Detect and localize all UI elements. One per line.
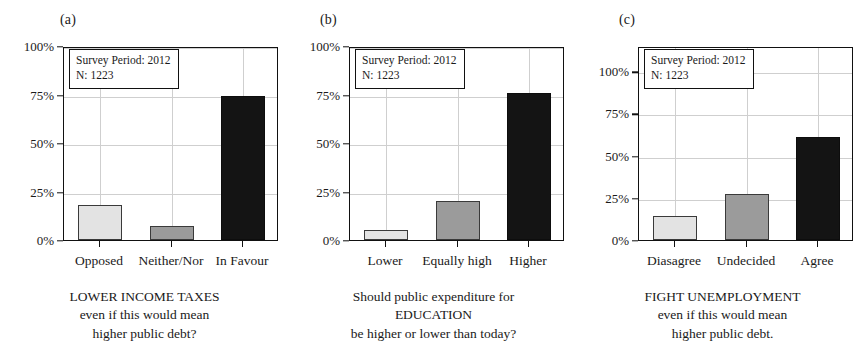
panel-c-sample-size: N: 1223 xyxy=(651,68,746,83)
panel-a-caption: LOWER INCOME TAXES even if this would me… xyxy=(0,288,289,343)
panel-b-caption-line-2: EDUCATION xyxy=(289,306,578,324)
x-axis-label-lower: Lower xyxy=(367,253,402,269)
y-tick-mark-75 xyxy=(632,114,638,115)
y-tick-label-25: 25% xyxy=(605,191,629,207)
bar-opposed xyxy=(78,205,122,240)
panel-c-caption: FIGHT UNEMPLOYMENT even if this would me… xyxy=(578,288,867,343)
x-axis-label-equally-high: Equally high xyxy=(422,253,491,269)
panel-a-annotation-box: Survey Period: 2012 N: 1223 xyxy=(69,49,179,89)
y-tick-mark-25 xyxy=(632,198,638,199)
y-tick-label-75: 75% xyxy=(605,106,629,122)
panel-a-sample-size: N: 1223 xyxy=(76,68,171,83)
y-tick-label-50: 50% xyxy=(30,136,54,152)
x-axis-label-diasagree: Diasagree xyxy=(647,253,701,269)
bar-undecided xyxy=(725,194,769,240)
x-axis-label-higher: Higher xyxy=(509,253,547,269)
y-tick-mark-0 xyxy=(57,240,63,241)
y-tick-mark-0 xyxy=(343,240,349,241)
y-tick-mark-50 xyxy=(632,156,638,157)
panel-b-annotation-box: Survey Period: 2012 N: 1223 xyxy=(355,49,465,89)
x-tick-mark xyxy=(171,241,172,247)
y-tick-label-0: 0% xyxy=(612,233,629,249)
panel-c-survey-period: Survey Period: 2012 xyxy=(651,53,746,68)
y-tick-label-0: 0% xyxy=(323,233,340,249)
y-tick-label-100: 100% xyxy=(310,39,340,55)
x-tick-mark xyxy=(528,241,529,247)
x-tick-mark xyxy=(385,241,386,247)
y-tick-label-25: 25% xyxy=(316,185,340,201)
y-tick-label-50: 50% xyxy=(605,149,629,165)
panel-b-caption-line-3: be higher or lower than today? xyxy=(289,325,578,343)
panel-b-caption-line-1: Should public expenditure for xyxy=(289,288,578,306)
bar-lower xyxy=(364,230,408,240)
panel-c-annotation-box: Survey Period: 2012 N: 1223 xyxy=(644,49,754,89)
x-tick-mark xyxy=(674,241,675,247)
panel-a-survey-period: Survey Period: 2012 xyxy=(76,53,171,68)
x-tick-mark xyxy=(99,241,100,247)
y-tick-mark-100 xyxy=(343,46,349,47)
y-tick-mark-100 xyxy=(632,72,638,73)
y-tick-mark-25 xyxy=(57,192,63,193)
y-tick-mark-50 xyxy=(343,143,349,144)
panel-b-caption: Should public expenditure for EDUCATION … xyxy=(289,288,578,343)
x-axis-label-in-favour: In Favour xyxy=(216,253,269,269)
bar-agree xyxy=(796,137,840,240)
y-tick-mark-50 xyxy=(57,143,63,144)
y-tick-label-100: 100% xyxy=(24,39,54,55)
panel-a-caption-line-2: even if this would mean xyxy=(0,306,289,324)
bar-in-favour xyxy=(221,96,265,240)
y-tick-mark-75 xyxy=(57,95,63,96)
panel-c-caption-line-2: even if this would mean xyxy=(578,306,867,324)
bar-higher xyxy=(507,93,551,240)
survey-bar-chart-figure: (a) 0%25%50%75%100% OpposedNeither/NorIn… xyxy=(0,0,867,359)
y-tick-label-0: 0% xyxy=(37,233,54,249)
panel-b-survey-period: Survey Period: 2012 xyxy=(362,53,457,68)
x-tick-mark xyxy=(457,241,458,247)
x-axis-label-neither-nor: Neither/Nor xyxy=(138,253,203,269)
x-tick-mark xyxy=(242,241,243,247)
panel-c-caption-line-3: higher public debt. xyxy=(578,325,867,343)
y-tick-mark-0 xyxy=(632,240,638,241)
y-tick-mark-75 xyxy=(343,95,349,96)
panel-a-caption-line-3: higher public debt? xyxy=(0,325,289,343)
y-tick-mark-25 xyxy=(343,192,349,193)
x-axis-label-undecided: Undecided xyxy=(717,253,775,269)
x-axis-label-opposed: Opposed xyxy=(75,253,123,269)
x-tick-mark xyxy=(746,241,747,247)
panel-b: (b) 0%25%50%75%100% LowerEqually highHig… xyxy=(289,0,578,359)
panel-a-caption-line-1: LOWER INCOME TAXES xyxy=(0,288,289,306)
y-tick-label-100: 100% xyxy=(599,64,629,80)
panel-a-letter: (a) xyxy=(60,12,76,28)
x-axis-label-agree: Agree xyxy=(801,253,834,269)
y-tick-label-25: 25% xyxy=(30,185,54,201)
y-tick-label-50: 50% xyxy=(316,136,340,152)
panel-b-sample-size: N: 1223 xyxy=(362,68,457,83)
panel-c-caption-line-1: FIGHT UNEMPLOYMENT xyxy=(578,288,867,306)
panel-c-letter: (c) xyxy=(619,12,635,28)
panel-a: (a) 0%25%50%75%100% OpposedNeither/NorIn… xyxy=(0,0,289,359)
bar-equally-high xyxy=(436,201,480,240)
bar-neither-nor xyxy=(150,226,194,240)
y-tick-mark-100 xyxy=(57,46,63,47)
x-tick-mark xyxy=(817,241,818,247)
panel-b-letter: (b) xyxy=(320,12,337,28)
y-tick-label-75: 75% xyxy=(316,88,340,104)
y-tick-label-75: 75% xyxy=(30,88,54,104)
bar-diasagree xyxy=(653,216,697,240)
panel-c: (c) 0%25%50%75%100% DiasagreeUndecidedAg… xyxy=(578,0,867,359)
